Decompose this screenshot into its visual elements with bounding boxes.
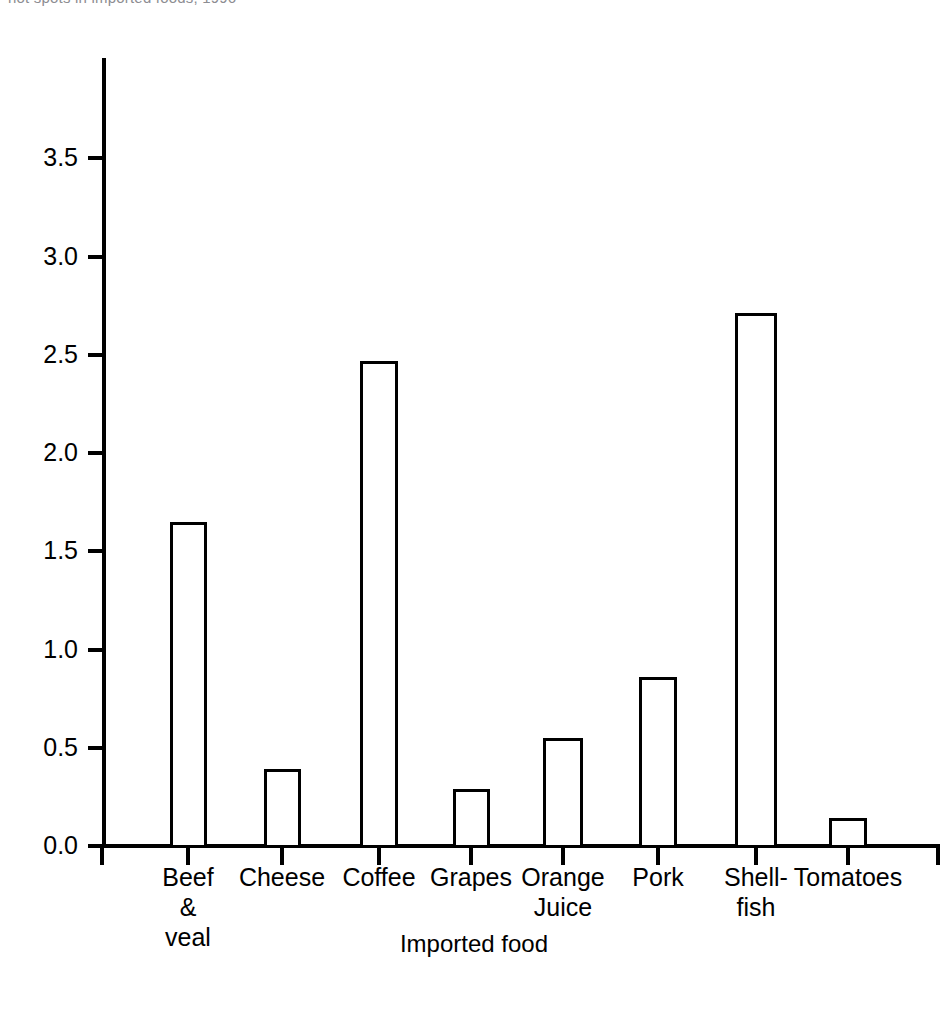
y-tick-label: 0.0 [16, 833, 78, 858]
y-tick-mark [88, 648, 104, 652]
y-tick-mark [88, 451, 104, 455]
y-tick-mark [88, 156, 104, 160]
x-tick-mark [100, 848, 104, 865]
y-tick-label: 2.5 [16, 342, 78, 367]
bar [453, 789, 490, 848]
bar [829, 818, 867, 848]
y-tick-mark [88, 549, 104, 553]
bar [639, 677, 677, 848]
y-tick-mark [88, 353, 104, 357]
y-tick-label: 3.0 [16, 244, 78, 269]
y-tick-label: 1.0 [16, 637, 78, 662]
x-tick-mark [936, 848, 940, 865]
y-tick-label: 0.5 [16, 735, 78, 760]
x-axis-title: Imported food [0, 930, 948, 958]
x-axis-label: Tomatoes [778, 862, 918, 892]
bar [735, 313, 777, 848]
bar [543, 738, 583, 848]
y-tick-mark [88, 746, 104, 750]
bar-chart: 0.00.51.01.52.02.53.03.5 Beef & vealChee… [0, 0, 948, 1018]
bar [170, 522, 207, 848]
y-tick-label: 1.5 [16, 538, 78, 563]
y-tick-label: 2.0 [16, 440, 78, 465]
x-axis-line [102, 844, 940, 848]
y-tick-mark [88, 255, 104, 259]
bar [264, 769, 301, 848]
bar [360, 361, 398, 848]
y-tick-label: 3.5 [16, 145, 78, 170]
